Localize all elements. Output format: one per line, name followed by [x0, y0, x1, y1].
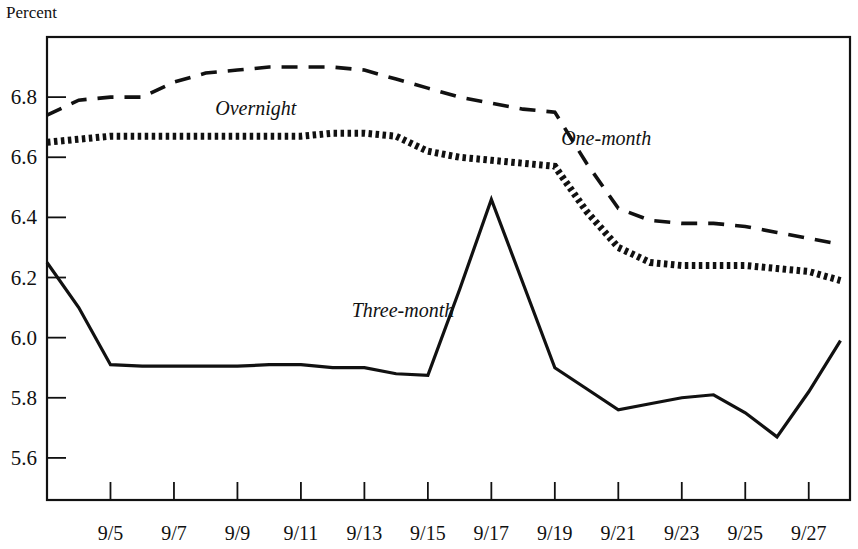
y-tick-label: 6.6 [11, 145, 37, 169]
y-axis-title: Percent [6, 3, 57, 22]
series-label-overnight: Overnight [215, 97, 297, 120]
x-tick-label: 9/27 [791, 522, 827, 544]
x-tick-label: 9/13 [347, 522, 383, 544]
x-tick-label: 9/15 [410, 522, 446, 544]
y-tick-label: 6.8 [11, 85, 37, 109]
x-tick-label: 9/7 [161, 522, 187, 544]
series-inline-labels: One-monthOvernightThree-month [215, 97, 651, 320]
percent-rates-chart: Percent 6.86.66.46.26.05.85.6 9/59/79/99… [0, 0, 858, 549]
x-tick-label: 9/9 [225, 522, 251, 544]
x-tick-label: 9/21 [601, 522, 637, 544]
y-tick-label: 6.2 [11, 266, 37, 290]
x-tick-label: 9/5 [98, 522, 124, 544]
x-tick-label: 9/11 [283, 522, 318, 544]
x-tick-label: 9/17 [474, 522, 510, 544]
y-tick-label: 5.6 [11, 446, 37, 470]
y-tick-label: 6.0 [11, 326, 37, 350]
x-tick-label: 9/25 [727, 522, 763, 544]
x-tick-label: 9/19 [537, 522, 573, 544]
x-axis-ticks: 9/59/79/99/119/139/159/179/199/219/239/2… [98, 482, 827, 544]
y-tick-label: 6.4 [11, 205, 38, 229]
series-line-overnight [47, 133, 840, 280]
series-lines [47, 67, 840, 437]
series-label-three-month: Three-month [352, 299, 455, 321]
y-tick-label: 5.8 [11, 386, 37, 410]
series-label-one-month: One-month [561, 127, 651, 149]
x-tick-label: 9/23 [664, 522, 700, 544]
chart-canvas: Percent 6.86.66.46.26.05.85.6 9/59/79/99… [0, 0, 858, 549]
